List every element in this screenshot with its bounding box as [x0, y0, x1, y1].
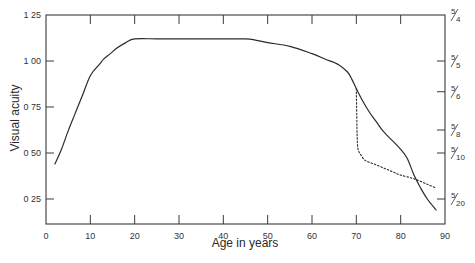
x-tick-label: 60: [307, 231, 317, 241]
svg-text:20: 20: [456, 199, 465, 208]
visual-acuity-chart: 0102030405060708090 0 250 500 751 001 25…: [0, 0, 475, 263]
y2-tick-label: 54: [451, 7, 461, 24]
y-axis-title: Visual acuity: [8, 84, 22, 151]
x-axis-ticks: 0102030405060708090: [43, 15, 450, 241]
svg-text:10: 10: [456, 153, 465, 162]
y-tick-label: 0 50: [23, 148, 41, 158]
x-tick-label: 70: [351, 231, 361, 241]
series-layer: [55, 39, 436, 210]
y2-tick-label: 56: [451, 84, 461, 101]
y2-tick-label: 520: [451, 191, 465, 208]
svg-text:8: 8: [456, 130, 461, 139]
y-tick-label: 1 25: [23, 10, 41, 20]
acuity-curve-line: [55, 39, 436, 210]
x-tick-label: 80: [396, 231, 406, 241]
secondary-y-axis-ticks: 54555658510520: [437, 7, 465, 208]
plot-frame: [46, 15, 445, 224]
y-tick-label: 0 25: [23, 194, 41, 204]
plot-border: [46, 15, 445, 224]
dotted-branch-line: [356, 89, 436, 188]
svg-text:6: 6: [456, 92, 461, 101]
y2-tick-label: 55: [451, 53, 461, 70]
x-tick-label: 20: [130, 231, 140, 241]
y-tick-label: 0 75: [23, 102, 41, 112]
x-tick-label: 0: [43, 231, 48, 241]
x-axis-title: Age in years: [212, 236, 279, 250]
y2-tick-label: 58: [451, 122, 461, 139]
svg-text:5: 5: [456, 61, 461, 70]
chart-canvas: 0102030405060708090 0 250 500 751 001 25…: [0, 0, 475, 263]
svg-text:4: 4: [456, 15, 461, 24]
y-tick-label: 1 00: [23, 56, 41, 66]
y-axis-ticks: 0 250 500 751 001 25: [23, 10, 54, 204]
x-tick-label: 90: [440, 231, 450, 241]
x-tick-label: 30: [174, 231, 184, 241]
y2-tick-label: 510: [451, 145, 465, 162]
x-tick-label: 10: [85, 231, 95, 241]
